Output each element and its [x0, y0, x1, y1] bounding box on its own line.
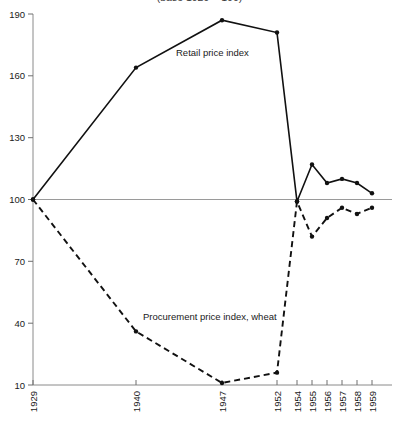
- x-tick-label-1954: 1954: [292, 391, 303, 412]
- x-tick-label-1940: 1940: [131, 391, 142, 412]
- data-point: [220, 18, 224, 22]
- x-tick-label-1947: 1947: [217, 391, 228, 412]
- x-tick-label-1959: 1959: [367, 391, 378, 412]
- data-point: [310, 234, 314, 238]
- retail-price-index-markers: [31, 18, 374, 204]
- data-point: [275, 370, 279, 374]
- y-tick-label-10: 10: [14, 380, 25, 391]
- x-tick-label-1929: 1929: [28, 391, 39, 412]
- y-tick-label-40: 40: [14, 318, 25, 329]
- data-point: [325, 216, 329, 220]
- procurement-price-index-line: [33, 200, 372, 383]
- data-point: [134, 329, 138, 333]
- y-tick-label-100: 100: [9, 194, 25, 205]
- data-point: [310, 162, 314, 166]
- y-axis: 190 160 130 100 70 40 10: [9, 9, 33, 391]
- data-point: [31, 197, 35, 201]
- procurement-price-index-markers: [31, 197, 374, 385]
- retail-series-label: Retail price index: [176, 47, 249, 58]
- data-point: [325, 181, 329, 185]
- data-point: [355, 212, 359, 216]
- y-tick-label-70: 70: [14, 256, 25, 267]
- y-tick-label-160: 160: [9, 70, 25, 81]
- x-tick-label-1956: 1956: [322, 391, 333, 412]
- chart-figure: (base 1929 = 100) 190 160 130 100 70 40 …: [0, 0, 399, 426]
- y-tick-label-130: 130: [9, 132, 25, 143]
- x-tick-label-1952: 1952: [272, 391, 283, 412]
- data-point: [370, 206, 374, 210]
- x-axis: 1929 1940 1947 1952 1954 1955 1956 1957 …: [28, 380, 392, 412]
- x-tick-marks: [33, 380, 372, 385]
- procurement-series-label: Procurement price index, wheat: [143, 311, 277, 322]
- data-point: [275, 30, 279, 34]
- data-point: [220, 381, 224, 385]
- data-point: [370, 191, 374, 195]
- data-point: [295, 199, 299, 203]
- data-point: [340, 177, 344, 181]
- chart-canvas: 190 160 130 100 70 40 10 1929: [0, 0, 399, 426]
- data-point: [340, 206, 344, 210]
- y-tick-label-190: 190: [9, 9, 25, 20]
- x-tick-label-1958: 1958: [352, 391, 363, 412]
- x-tick-label-1957: 1957: [337, 391, 348, 412]
- x-tick-label-1955: 1955: [307, 391, 318, 412]
- data-point: [355, 181, 359, 185]
- data-point: [134, 65, 138, 69]
